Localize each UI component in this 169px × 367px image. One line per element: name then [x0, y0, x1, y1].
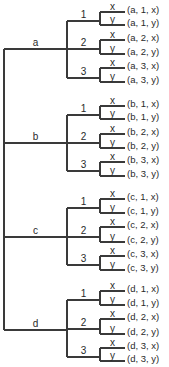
- edge-label-a-1: 1: [81, 9, 87, 20]
- edge-label-c-3-y: y: [110, 259, 115, 270]
- outcome-label: (a, 3, y): [127, 74, 159, 85]
- edge-label-c-2: 2: [81, 225, 87, 236]
- edge-label-b: b: [33, 131, 39, 142]
- edge-label-d-3-y: y: [110, 350, 115, 361]
- outcome-label: (a, 3, x): [127, 60, 159, 71]
- edge-label-b-3-x: x: [110, 151, 115, 162]
- edge-label-b-1: 1: [81, 103, 87, 114]
- edge-label-d-3-x: x: [110, 337, 115, 348]
- edge-label-b-1-x: x: [110, 95, 115, 106]
- outcome-label: (b, 2, y): [127, 140, 159, 151]
- edge-label-b-3: 3: [81, 159, 87, 170]
- edge-label-a-3-y: y: [110, 71, 115, 82]
- outcome-label: (c, 1, y): [127, 205, 159, 216]
- outcome-label: (d, 1, x): [127, 283, 159, 294]
- outcome-label: (c, 2, x): [127, 219, 159, 230]
- outcome-label: (b, 1, y): [127, 111, 159, 122]
- edge-label-d-1: 1: [81, 288, 87, 299]
- edge-label-a-1-x: x: [110, 1, 115, 12]
- outcome-label: (b, 1, x): [127, 98, 159, 109]
- edge-label-a-1-y: y: [110, 14, 115, 25]
- outcome-label: (c, 1, x): [127, 191, 159, 202]
- outcome-label: (d, 3, x): [127, 340, 159, 351]
- edge-label-a-3: 3: [81, 66, 87, 77]
- edge-label-a: a: [33, 37, 39, 48]
- edge-label-d-2-y: y: [110, 323, 115, 334]
- outcome-label: (c, 3, x): [127, 248, 159, 259]
- outcome-label: (d, 2, x): [127, 311, 159, 322]
- edge-label-a-2: 2: [81, 37, 87, 48]
- outcome-label: (b, 3, y): [127, 168, 159, 179]
- outcome-label: (d, 1, y): [127, 297, 159, 308]
- edge-label-c-3: 3: [81, 253, 87, 264]
- edge-label-c-1-x: x: [110, 188, 115, 199]
- edge-label-b-3-y: y: [110, 165, 115, 176]
- outcome-label: (a, 2, x): [127, 32, 159, 43]
- edge-label-d-2: 2: [81, 317, 87, 328]
- edge-label-c-2-x: x: [110, 216, 115, 227]
- edge-label-c-3-x: x: [110, 245, 115, 256]
- edge-label-d-1-y: y: [110, 294, 115, 305]
- edge-label-d-1-x: x: [110, 280, 115, 291]
- outcome-label: (b, 3, x): [127, 154, 159, 165]
- outcome-label: (b, 2, x): [127, 126, 159, 137]
- edge-label-a-3-x: x: [110, 57, 115, 68]
- edge-label-b-2-y: y: [110, 137, 115, 148]
- edge-label-d-3: 3: [81, 345, 87, 356]
- edge-label-d: d: [33, 318, 39, 329]
- edge-label-c-2-y: y: [110, 231, 115, 242]
- outcome-label: (c, 2, y): [127, 234, 159, 245]
- edge-label-b-1-y: y: [110, 108, 115, 119]
- outcome-label: (a, 1, y): [127, 17, 159, 28]
- outcome-label: (a, 1, x): [127, 4, 159, 15]
- edge-label-c-1: 1: [81, 196, 87, 207]
- edge-label-b-2: 2: [81, 131, 87, 142]
- outcome-label: (c, 3, y): [127, 262, 159, 273]
- outcome-label: (d, 3, y): [127, 353, 159, 364]
- outcome-label: (a, 2, y): [127, 46, 159, 57]
- edge-label-d-2-x: x: [110, 308, 115, 319]
- tree-diagram: a1x(a, 1, x)y(a, 1, y)2x(a, 2, x)y(a, 2,…: [0, 0, 169, 367]
- edge-label-c: c: [33, 225, 38, 236]
- edge-label-c-1-y: y: [110, 202, 115, 213]
- edge-label-b-2-x: x: [110, 123, 115, 134]
- edge-label-a-2-y: y: [110, 43, 115, 54]
- edge-label-a-2-x: x: [110, 29, 115, 40]
- outcome-label: (d, 2, y): [127, 326, 159, 337]
